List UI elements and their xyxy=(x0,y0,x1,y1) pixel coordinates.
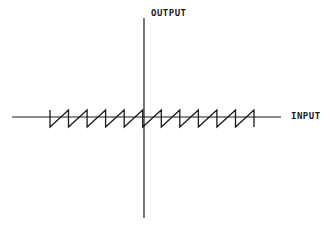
input-axis-label: INPUT xyxy=(291,111,321,121)
transfer-diagram xyxy=(0,0,332,230)
sawtooth-waveform xyxy=(50,110,254,127)
output-axis-label: OUTPUT xyxy=(151,8,187,18)
